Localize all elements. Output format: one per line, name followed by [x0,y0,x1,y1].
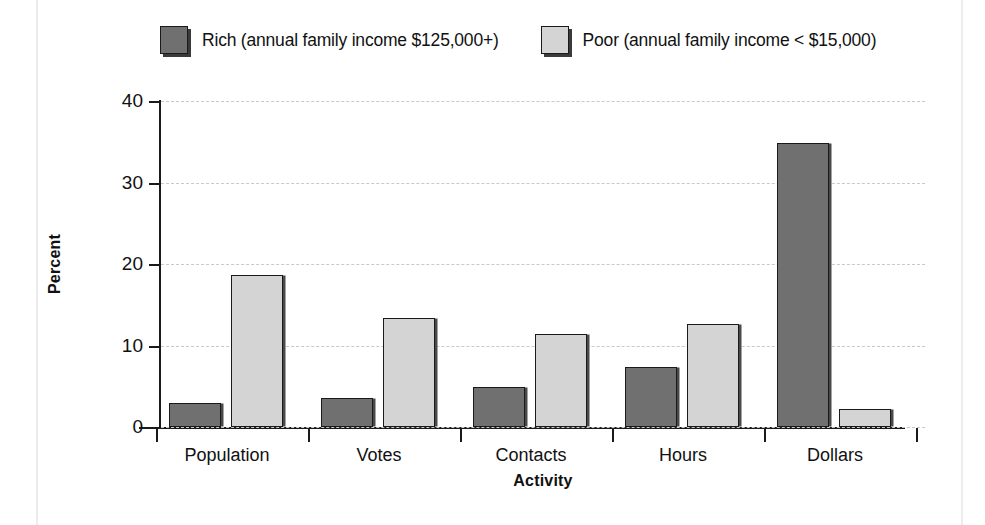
page-edge-right [961,0,963,525]
category-separator-0 [156,428,158,442]
bar-contacts-poor [535,334,587,427]
y-tick-40 [149,101,161,103]
plot-area: 010203040 PopulationVotesContactsHoursDo… [161,101,925,427]
bar-population-rich [169,403,221,427]
legend-swatch-rich-icon [160,26,188,54]
chart-legend: Rich (annual family income $125,000+) Po… [160,26,876,54]
y-tick-10 [149,346,161,348]
bar-votes-poor [383,318,435,427]
category-separator-3 [612,428,614,442]
category-separator-4 [764,428,766,442]
category-label-population: Population [184,445,269,466]
bar-contacts-rich [473,387,525,427]
gridline-0 [161,427,925,428]
x-axis-title: Activity [513,472,572,490]
category-label-hours: Hours [659,445,707,466]
y-tick-label-20: 20 [122,253,143,275]
page-edge-left [36,0,38,525]
category-separator-2 [460,428,462,442]
legend-label-rich: Rich (annual family income $125,000+) [202,30,499,51]
bar-hours-rich [625,367,677,427]
chart-figure: Rich (annual family income $125,000+) Po… [0,0,985,525]
y-tick-0 [149,427,161,429]
category-label-contacts: Contacts [495,445,566,466]
y-tick-30 [149,183,161,185]
bar-hours-poor [687,324,739,428]
y-tick-label-40: 40 [122,90,143,112]
legend-item-poor: Poor (annual family income < $15,000) [541,26,877,54]
category-label-dollars: Dollars [807,445,863,466]
category-separator-end [916,428,918,442]
legend-label-poor: Poor (annual family income < $15,000) [583,30,877,51]
legend-item-rich: Rich (annual family income $125,000+) [160,26,499,54]
category-label-votes: Votes [356,445,401,466]
legend-swatch-poor-icon [541,26,569,54]
gridline-40 [161,101,925,102]
y-tick-label-0: 0 [132,416,143,438]
y-axis-title: Percent [46,234,64,294]
y-tick-20 [149,264,161,266]
bar-population-poor [231,275,283,427]
bar-dollars-rich [777,143,829,427]
y-tick-label-30: 30 [122,172,143,194]
bar-dollars-poor [839,409,891,427]
bar-votes-rich [321,398,373,427]
y-tick-label-10: 10 [122,335,143,357]
category-separator-1 [308,428,310,442]
